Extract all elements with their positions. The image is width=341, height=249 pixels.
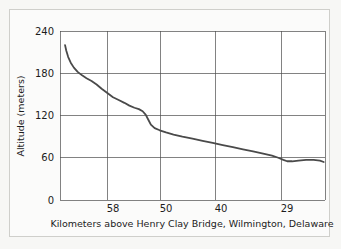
- y-axis-tick-labels: 240 180 120 60 0: [35, 26, 54, 206]
- x-tick-label-58: 58: [107, 203, 120, 214]
- y-tick-label-120: 120: [35, 110, 54, 121]
- figure-container: 240 180 120 60 0 58 50 40 29 Altitude (m…: [0, 0, 341, 249]
- y-tick-label-240: 240: [35, 26, 54, 37]
- x-axis-tick-labels: 58 50 40 29: [107, 203, 294, 214]
- y-tick-label-0: 0: [48, 195, 54, 206]
- y-tick-label-60: 60: [41, 152, 54, 163]
- x-tick-label-40: 40: [215, 203, 228, 214]
- x-tick-label-50: 50: [160, 203, 173, 214]
- x-axis-title: Kilometers above Henry Clay Bridge, Wilm…: [50, 218, 333, 229]
- altitude-line-chart: 240 180 120 60 0 58 50 40 29 Altitude (m…: [0, 0, 341, 249]
- y-tick-label-180: 180: [35, 68, 54, 79]
- x-tick-label-29: 29: [281, 203, 294, 214]
- y-axis-title: Altitude (meters): [15, 75, 26, 156]
